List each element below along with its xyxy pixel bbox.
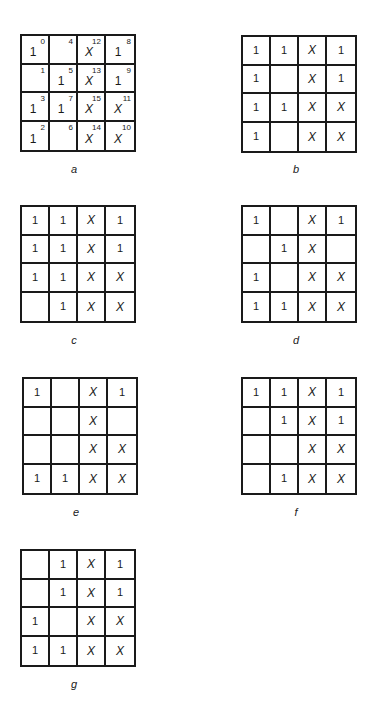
kmap-grid-c: 11X111X111XX1XX: [20, 205, 136, 323]
kmap-cell: 17: [50, 93, 78, 122]
kmap-cell: X: [327, 264, 355, 293]
dont-care-value: X: [308, 473, 316, 485]
dont-care-value: X: [85, 103, 93, 115]
kmap-cell: 1: [327, 207, 355, 236]
kmap-grid-d: 1X11X1XX11XX: [241, 205, 357, 323]
kmap-cell: [271, 66, 299, 95]
dont-care-value: X: [114, 103, 122, 115]
kmap-cell: X: [106, 293, 134, 322]
kmap-cell: X: [299, 123, 327, 152]
cell-value: 1: [30, 133, 37, 145]
cell-value: 1: [60, 559, 66, 570]
kmap-cell: [243, 236, 271, 265]
dont-care-value: X: [114, 133, 122, 145]
cell-value: 1: [338, 415, 344, 426]
kmap-cell: 1: [106, 207, 134, 236]
panel-caption: b: [286, 163, 306, 175]
cell-value: 1: [115, 75, 122, 87]
dont-care-value: X: [89, 386, 97, 398]
cell-value: 1: [338, 387, 344, 398]
kmap-cell: 1: [271, 379, 299, 408]
minterm-index: 5: [69, 67, 73, 75]
dont-care-value: X: [87, 558, 95, 570]
dont-care-value: X: [337, 443, 345, 455]
kmap-cell: X10: [106, 122, 134, 151]
kmap-cell: X: [327, 465, 355, 494]
kmap-cell: 1: [22, 608, 50, 637]
kmap-cell: [271, 123, 299, 152]
kmap-cell: 1: [271, 293, 299, 322]
kmap-cell: [52, 436, 80, 465]
minterm-index: 1: [41, 67, 45, 75]
kmap-cell: X: [80, 465, 108, 494]
cell-value: 1: [60, 645, 66, 656]
minterm-index: 8: [127, 38, 131, 46]
kmap-grid-g: 1X11X11XX11XX: [20, 549, 136, 667]
cell-value: 1: [32, 215, 38, 226]
cell-value: 1: [281, 387, 287, 398]
dont-care-value: X: [308, 301, 316, 313]
kmap-cell: 1: [327, 66, 355, 95]
cell-value: 1: [32, 645, 38, 656]
dont-care-value: X: [308, 443, 316, 455]
cell-value: 1: [253, 387, 259, 398]
cell-value: 1: [338, 215, 344, 226]
kmap-cell: [22, 293, 50, 322]
cell-value: 1: [58, 75, 65, 87]
kmap-cell: 1: [271, 94, 299, 123]
kmap-cell: 13: [22, 93, 50, 122]
kmap-cell: X: [78, 236, 106, 265]
dont-care-value: X: [337, 101, 345, 113]
kmap-cell: 1: [243, 123, 271, 152]
dont-care-value: X: [87, 645, 95, 657]
kmap-cell: 1: [50, 637, 78, 666]
minterm-index: 2: [41, 124, 45, 132]
kmap-cell: X: [299, 379, 327, 408]
panel-caption: a: [64, 163, 84, 175]
cell-value: 1: [60, 243, 66, 254]
kmap-cell: 19: [106, 65, 134, 94]
kmap-cell: X: [80, 379, 108, 408]
kmap-cell: X: [80, 408, 108, 437]
kmap-cell: [24, 436, 52, 465]
kmap-cell: 1: [106, 580, 134, 609]
minterm-index: 10: [122, 124, 131, 132]
kmap-cell: X: [78, 637, 106, 666]
minterm-index: 0: [41, 38, 45, 46]
cell-value: 1: [62, 473, 68, 484]
kmap-cell: X: [299, 94, 327, 123]
kmap-cell: 1: [50, 551, 78, 580]
cell-value: 1: [253, 272, 259, 283]
kmap-cell: [243, 408, 271, 437]
kmap-cell: 1: [243, 379, 271, 408]
cell-value: 1: [30, 103, 37, 115]
dont-care-value: X: [308, 73, 316, 85]
dont-care-value: X: [337, 301, 345, 313]
kmap-cell: 10: [22, 36, 50, 65]
kmap-cell: X: [106, 637, 134, 666]
kmap-grid-a: 104X1218115X13191317X15X11126X14X10: [20, 34, 136, 152]
cell-value: 1: [281, 243, 287, 254]
minterm-index: 12: [92, 38, 101, 46]
kmap-cell: [22, 551, 50, 580]
kmap-cell: 1: [108, 379, 136, 408]
kmap-cell: 1: [243, 37, 271, 66]
kmap-cell: [243, 465, 271, 494]
cell-value: 1: [253, 215, 259, 226]
kmap-cell: [271, 264, 299, 293]
kmap-cell: X: [299, 236, 327, 265]
dont-care-value: X: [308, 271, 316, 283]
minterm-index: 3: [41, 95, 45, 103]
cell-value: 1: [117, 587, 123, 598]
dont-care-value: X: [85, 75, 93, 87]
minterm-index: 11: [123, 95, 131, 103]
kmap-cell: 1: [243, 94, 271, 123]
kmap-cell: 6: [50, 122, 78, 151]
kmap-cell: X: [80, 436, 108, 465]
cell-value: 1: [338, 73, 344, 84]
kmap-cell: [327, 236, 355, 265]
dont-care-value: X: [118, 473, 126, 485]
kmap-grid-b: 11X11X111XX1XX: [241, 35, 357, 153]
panel-caption: e: [66, 506, 86, 518]
kmap-cell: X: [78, 264, 106, 293]
